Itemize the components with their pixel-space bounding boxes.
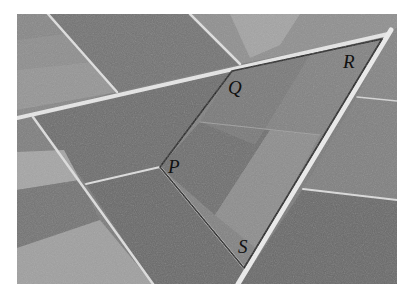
vertex-label-s: S [238, 236, 248, 257]
aerial-field-photo: P Q R S [0, 0, 415, 303]
vertex-label-p: P [167, 156, 180, 177]
field-patches [17, 14, 397, 284]
vertex-label-r: R [342, 51, 355, 72]
vertex-label-q: Q [228, 77, 242, 98]
